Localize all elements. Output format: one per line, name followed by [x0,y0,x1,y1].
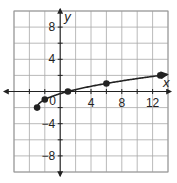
data-point [34,104,41,111]
x-tick-label: 12 [146,96,160,110]
y-tick-label: 8 [49,20,56,34]
data-point [65,88,72,95]
x-tick-label: 4 [88,96,95,110]
data-point [103,80,110,87]
x-tick-label: 8 [118,96,125,110]
graph: xy 481284−4−80 [0,0,177,183]
y-tick-label: 4 [49,52,56,66]
y-tick-label: −8 [42,149,56,163]
y-tick-label: −4 [42,117,56,131]
data-point [42,96,49,103]
data-point [157,72,164,79]
